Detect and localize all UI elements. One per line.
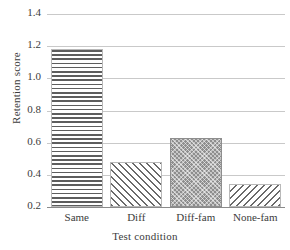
bar-none-fam[interactable]: [229, 184, 281, 207]
y-tick-label: 1.2: [27, 38, 41, 50]
bar-group: Same Diff Diff-fam None-fam: [47, 14, 285, 207]
bar-slot-diff-fam: Diff-fam: [166, 14, 226, 207]
bar-diff[interactable]: [110, 162, 162, 207]
x-tick-label-diff-fam: Diff-fam: [176, 211, 215, 223]
bar-slot-none-fam: None-fam: [226, 14, 286, 207]
bar-chart-figure: Retention score 1.4 1.2 1.0 0.8 0.6 0.4 …: [0, 0, 290, 250]
x-tick-label-diff: Diff: [127, 211, 145, 223]
plot-area: 1.4 1.2 1.0 0.8 0.6 0.4 0.2 Same: [47, 14, 285, 207]
x-axis-title: Test condition: [0, 230, 290, 242]
bar-same[interactable]: [51, 49, 103, 207]
x-axis-baseline: 0.2: [47, 207, 285, 208]
y-tick-label: 0.6: [27, 135, 41, 147]
x-tick-label-same: Same: [65, 211, 89, 223]
bar-slot-same: Same: [47, 14, 107, 207]
y-tick-label: 0.2: [27, 199, 41, 211]
y-axis-title: Retention score: [10, 28, 22, 148]
y-tick-label: 1.4: [27, 6, 41, 18]
y-tick-label: 1.0: [27, 70, 41, 82]
bar-slot-diff: Diff: [107, 14, 167, 207]
x-tick-label-none-fam: None-fam: [233, 211, 278, 223]
y-tick-label: 0.4: [27, 167, 41, 179]
y-tick-label: 0.8: [27, 103, 41, 115]
bar-diff-fam[interactable]: [170, 138, 222, 207]
